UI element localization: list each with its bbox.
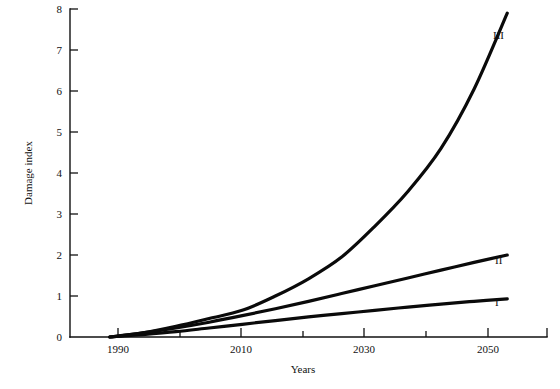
series-label-I: I bbox=[495, 296, 499, 308]
y-tick-label: 8 bbox=[57, 3, 63, 15]
y-tick-label: 1 bbox=[57, 290, 63, 302]
y-axis-tick-labels: 8 7 6 5 4 3 2 1 0 bbox=[57, 3, 63, 343]
y-tick-label: 2 bbox=[57, 249, 63, 261]
x-tick-label: 2050 bbox=[477, 343, 500, 355]
x-axis-title: Years bbox=[291, 363, 316, 375]
series-label-III: III bbox=[493, 29, 504, 41]
y-tick-label: 6 bbox=[57, 85, 63, 97]
y-tick-label: 4 bbox=[57, 167, 63, 179]
series-label-II: II bbox=[495, 254, 503, 266]
chart-background bbox=[0, 0, 560, 389]
y-tick-label: 0 bbox=[57, 331, 63, 343]
y-tick-label: 3 bbox=[57, 208, 63, 220]
chart-container: 8 7 6 5 4 3 2 1 0 1990 2010 20 bbox=[0, 0, 560, 389]
x-tick-label: 1990 bbox=[107, 343, 130, 355]
x-tick-label: 2030 bbox=[353, 343, 376, 355]
y-axis-title: Damage index bbox=[22, 141, 34, 205]
y-tick-label: 5 bbox=[57, 126, 63, 138]
y-tick-label: 7 bbox=[57, 44, 63, 56]
line-chart-svg: 8 7 6 5 4 3 2 1 0 1990 2010 20 bbox=[0, 0, 560, 389]
x-tick-label: 2010 bbox=[230, 343, 253, 355]
